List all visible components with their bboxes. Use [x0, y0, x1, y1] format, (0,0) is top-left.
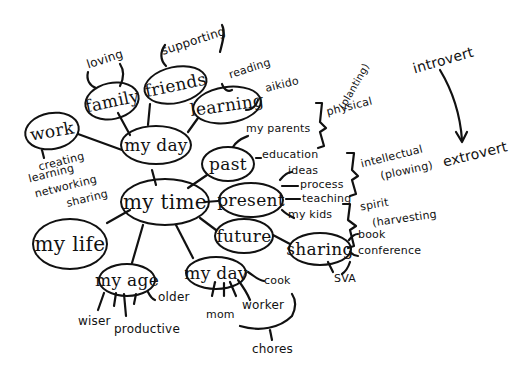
label-my-kids: my kids [288, 208, 332, 221]
label-older: older [158, 290, 190, 304]
label-wiser: wiser [78, 314, 111, 328]
node-my-age: my age [98, 263, 156, 297]
label-education: education [262, 148, 318, 161]
label-sva: SVA [334, 272, 356, 285]
node-my-day-bottom: my day [185, 256, 247, 290]
node-sharing: sharing [288, 232, 352, 266]
label-my-parents: my parents [246, 122, 311, 135]
node-past: past [201, 146, 255, 182]
mind-map-canvas: my time my day family friends learning w… [0, 0, 525, 376]
node-my-time: my time [120, 178, 210, 226]
node-my-day-top: my day [120, 125, 192, 165]
label-process: process [300, 178, 344, 191]
node-future: future [214, 218, 274, 254]
label-ideas: ideas [288, 164, 318, 177]
label-mom: mom [206, 308, 235, 321]
label-cook: cook [264, 274, 291, 287]
label-book: book [358, 228, 386, 241]
node-my-life: my life [32, 218, 108, 270]
node-present: present [218, 182, 284, 218]
label-productive: productive [114, 322, 180, 336]
label-chores: chores [252, 342, 293, 356]
label-teaching: teaching [302, 192, 351, 205]
label-conference: conference [358, 244, 421, 257]
label-worker: worker [242, 298, 284, 312]
